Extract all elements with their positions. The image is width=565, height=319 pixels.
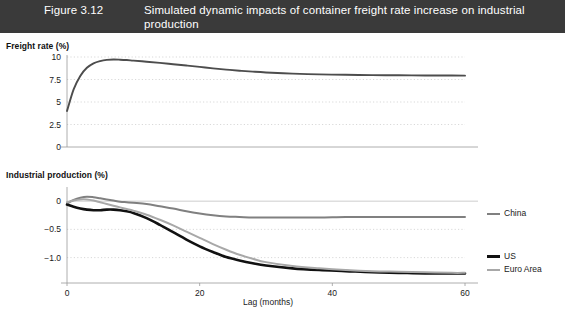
freight-series-paths [67,60,465,111]
svg-text:0: 0 [56,142,61,152]
svg-text:0: 0 [65,288,70,298]
figure-title: Simulated dynamic impacts of container f… [144,4,544,31]
industrial-series-paths [67,197,465,274]
freight-gridlines [67,57,465,125]
industrial-x-axis-label: Lag (months) [243,297,293,307]
svg-text:20: 20 [195,288,205,298]
svg-text:−0.5: −0.5 [44,224,61,234]
svg-text:2.5: 2.5 [49,120,61,130]
figure-title-band: Figure 3.12 Simulated dynamic impacts of… [0,0,565,33]
freight-rate-panel-title: Freight rate (%) [6,41,69,51]
legend-swatch-us [487,255,500,258]
legend-item-euro-area: Euro Area [487,265,542,274]
figure-number: Figure 3.12 [44,4,103,16]
legend-label-china: China [504,209,526,218]
legend-label-euro-area: Euro Area [504,265,542,274]
svg-text:0: 0 [56,196,61,206]
industrial-production-panel-title: Industrial production (%) [6,170,108,180]
svg-text:60: 60 [460,288,470,298]
industrial-axis-lines [61,187,478,286]
industrial-production-chart: 0−0.5−1.0 0204060 Lag (months) [0,0,565,319]
industrial-y-tick-labels: 0−0.5−1.0 [44,196,61,262]
svg-text:−1.0: −1.0 [44,253,61,263]
svg-text:7.5: 7.5 [49,75,61,85]
svg-text:5: 5 [56,97,61,107]
svg-text:Lag (months): Lag (months) [243,297,293,307]
legend-swatch-china [487,213,500,215]
industrial-x-tick-labels: 0204060 [65,288,470,298]
svg-text:40: 40 [328,288,338,298]
freight-axis-lines [61,55,478,147]
legend-item-china: China [487,209,526,218]
freight-y-tick-labels: 02.557.510 [49,52,61,152]
freight-rate-chart: 02.557.510 [0,0,565,319]
industrial-gridlines [67,201,478,257]
legend-label-us: US [504,252,516,261]
legend-swatch-euro-area [487,269,500,271]
legend-item-us: US [487,252,516,261]
svg-text:10: 10 [52,52,62,62]
